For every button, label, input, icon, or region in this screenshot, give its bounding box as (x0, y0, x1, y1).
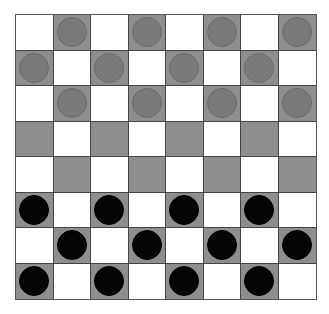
grey-checker-piece[interactable] (132, 17, 162, 47)
checkers-board (15, 14, 317, 300)
board-square-r6-c5[interactable] (204, 228, 242, 264)
board-square-r7-c6[interactable] (241, 264, 279, 300)
board-square-r1-c3[interactable] (129, 51, 167, 87)
black-checker-piece[interactable] (94, 195, 124, 225)
board-square-r5-c3[interactable] (129, 193, 167, 229)
board-square-r5-c2[interactable] (91, 193, 129, 229)
grey-checker-piece[interactable] (244, 53, 274, 83)
board-square-r2-c2[interactable] (91, 86, 129, 122)
board-square-r4-c4[interactable] (166, 157, 204, 193)
board-square-r5-c4[interactable] (166, 193, 204, 229)
board-square-r1-c1[interactable] (54, 51, 92, 87)
board-square-r3-c4[interactable] (166, 122, 204, 158)
board-square-r3-c6[interactable] (241, 122, 279, 158)
board-square-r1-c6[interactable] (241, 51, 279, 87)
board-square-r7-c4[interactable] (166, 264, 204, 300)
board-square-r6-c6[interactable] (241, 228, 279, 264)
board-square-r0-c0[interactable] (16, 15, 54, 51)
board-square-r3-c5[interactable] (204, 122, 242, 158)
board-square-r0-c1[interactable] (54, 15, 92, 51)
board-square-r2-c6[interactable] (241, 86, 279, 122)
board-square-r4-c3[interactable] (129, 157, 167, 193)
black-checker-piece[interactable] (19, 195, 49, 225)
board-square-r7-c0[interactable] (16, 264, 54, 300)
grey-checker-piece[interactable] (207, 88, 237, 118)
black-checker-piece[interactable] (94, 266, 124, 296)
board-square-r6-c3[interactable] (129, 228, 167, 264)
board-square-r5-c0[interactable] (16, 193, 54, 229)
board-square-r0-c7[interactable] (279, 15, 317, 51)
board-square-r1-c0[interactable] (16, 51, 54, 87)
board-square-r6-c2[interactable] (91, 228, 129, 264)
board-square-r4-c2[interactable] (91, 157, 129, 193)
board-square-r0-c6[interactable] (241, 15, 279, 51)
grey-checker-piece[interactable] (282, 17, 312, 47)
board-square-r6-c4[interactable] (166, 228, 204, 264)
board-square-r5-c7[interactable] (279, 193, 317, 229)
board-square-r5-c6[interactable] (241, 193, 279, 229)
board-square-r0-c2[interactable] (91, 15, 129, 51)
black-checker-piece[interactable] (57, 230, 87, 260)
board-square-r6-c0[interactable] (16, 228, 54, 264)
grey-checker-piece[interactable] (207, 17, 237, 47)
board-square-r7-c1[interactable] (54, 264, 92, 300)
board-square-r3-c2[interactable] (91, 122, 129, 158)
board-square-r5-c5[interactable] (204, 193, 242, 229)
black-checker-piece[interactable] (19, 266, 49, 296)
board-square-r2-c7[interactable] (279, 86, 317, 122)
board-square-r3-c7[interactable] (279, 122, 317, 158)
board-square-r0-c3[interactable] (129, 15, 167, 51)
board-square-r4-c1[interactable] (54, 157, 92, 193)
board-square-r0-c5[interactable] (204, 15, 242, 51)
grey-checker-piece[interactable] (169, 53, 199, 83)
grey-checker-piece[interactable] (282, 88, 312, 118)
grey-checker-piece[interactable] (94, 53, 124, 83)
grey-checker-piece[interactable] (19, 53, 49, 83)
grey-checker-piece[interactable] (57, 88, 87, 118)
board-square-r2-c5[interactable] (204, 86, 242, 122)
board-square-r1-c5[interactable] (204, 51, 242, 87)
board-square-r6-c1[interactable] (54, 228, 92, 264)
board-square-r4-c7[interactable] (279, 157, 317, 193)
board-square-r2-c0[interactable] (16, 86, 54, 122)
black-checker-piece[interactable] (244, 195, 274, 225)
black-checker-piece[interactable] (169, 195, 199, 225)
grey-checker-piece[interactable] (132, 88, 162, 118)
board-square-r4-c0[interactable] (16, 157, 54, 193)
board-square-r2-c1[interactable] (54, 86, 92, 122)
board-square-r0-c4[interactable] (166, 15, 204, 51)
board-square-r7-c2[interactable] (91, 264, 129, 300)
board-square-r2-c4[interactable] (166, 86, 204, 122)
board-square-r1-c7[interactable] (279, 51, 317, 87)
black-checker-piece[interactable] (282, 230, 312, 260)
board-square-r1-c2[interactable] (91, 51, 129, 87)
board-square-r7-c7[interactable] (279, 264, 317, 300)
grey-checker-piece[interactable] (57, 17, 87, 47)
board-square-r7-c5[interactable] (204, 264, 242, 300)
board-square-r2-c3[interactable] (129, 86, 167, 122)
black-checker-piece[interactable] (207, 230, 237, 260)
board-square-r6-c7[interactable] (279, 228, 317, 264)
board-square-r7-c3[interactable] (129, 264, 167, 300)
board-square-r3-c3[interactable] (129, 122, 167, 158)
board-square-r3-c1[interactable] (54, 122, 92, 158)
board-square-r3-c0[interactable] (16, 122, 54, 158)
board-square-r1-c4[interactable] (166, 51, 204, 87)
board-square-r4-c5[interactable] (204, 157, 242, 193)
board-square-r4-c6[interactable] (241, 157, 279, 193)
black-checker-piece[interactable] (169, 266, 199, 296)
black-checker-piece[interactable] (132, 230, 162, 260)
board-square-r5-c1[interactable] (54, 193, 92, 229)
black-checker-piece[interactable] (244, 266, 274, 296)
